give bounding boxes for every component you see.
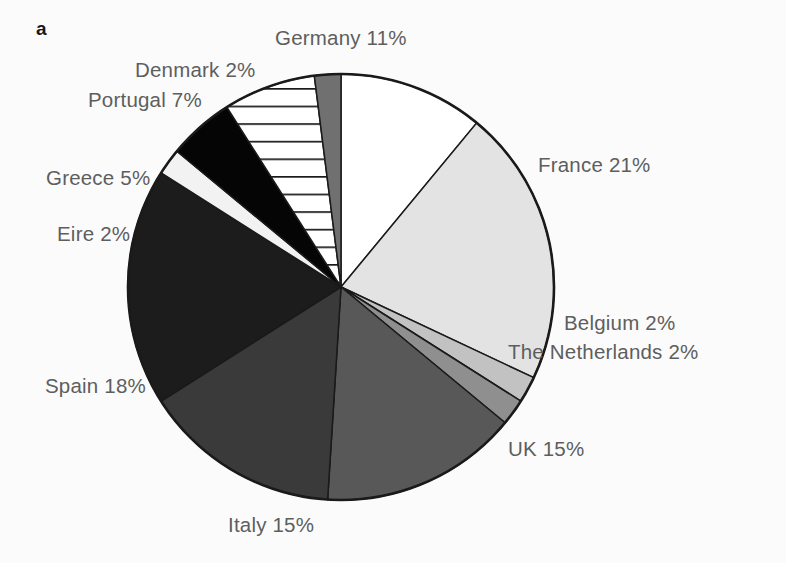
slice-label-italy: Italy 15% (228, 513, 314, 537)
slice-label-eire: Eire 2% (57, 222, 130, 246)
slice-label-greece: Greece 5% (46, 166, 150, 190)
slice-label-uk: UK 15% (508, 437, 584, 461)
slice-label-belgium: Belgium 2% (564, 311, 675, 335)
pie-chart-figure: a Germany 11% Denmark 2% Portugal 7% Gre… (0, 0, 786, 563)
slice-label-germany: Germany 11% (275, 26, 407, 50)
pie-slices-group (128, 74, 554, 500)
slice-label-france: France 21% (538, 153, 651, 177)
pie-chart-canvas (0, 0, 786, 563)
slice-label-spain: Spain 18% (45, 374, 146, 398)
slice-label-the-netherlands: The Netherlands 2% (508, 340, 698, 364)
slice-label-denmark: Denmark 2% (135, 58, 256, 82)
slice-label-portugal: Portugal 7% (88, 88, 202, 112)
